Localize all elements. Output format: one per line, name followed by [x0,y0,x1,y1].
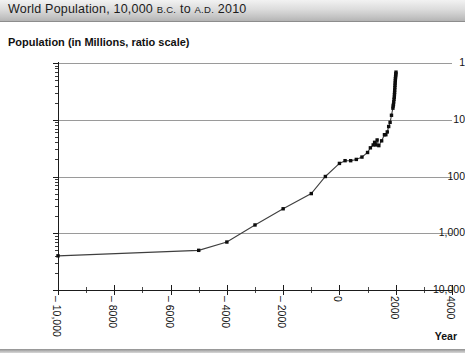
data-point [390,114,393,117]
data-point [281,207,284,210]
data-point [225,240,228,243]
x-axis-title: Year [435,330,457,342]
data-point [355,158,358,161]
data-point [394,70,397,73]
population-line [58,72,396,256]
data-point [56,254,59,257]
data-point [349,159,352,162]
population-markers [56,70,397,257]
data-point [253,223,256,226]
figure: World Population, 10,000 B.C. to A.D. 20… [0,0,465,358]
data-point [197,249,200,252]
data-series-layer [0,0,465,358]
plot-area: 10,0001,000100101 – 10,000– 8000– 6000– … [0,0,465,358]
data-point [375,138,378,141]
data-point [388,121,391,124]
data-point [338,162,341,165]
data-point [324,175,327,178]
data-point [366,151,369,154]
data-point [386,130,389,133]
data-point [343,159,346,162]
figure-bottom-rule [0,349,465,353]
data-point [369,146,372,149]
data-point [387,125,390,128]
data-point [380,139,383,142]
data-point [377,144,380,147]
data-point [360,155,363,158]
data-point [310,192,313,195]
